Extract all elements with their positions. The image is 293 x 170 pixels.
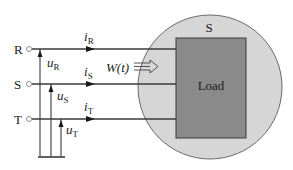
circuit-diagram: S Load R S T iR iS iT xyxy=(0,0,293,170)
system-label: S xyxy=(205,20,212,35)
terminal-r-label: R xyxy=(14,42,23,57)
terminal-r-icon xyxy=(27,47,32,52)
terminal-s-label: S xyxy=(14,77,21,92)
voltage-r-label: uR xyxy=(47,55,60,72)
current-r-label: iR xyxy=(84,29,94,46)
voltage-arrow-r-icon xyxy=(38,50,43,57)
current-arrow-r-icon xyxy=(86,46,95,52)
current-s-label: iS xyxy=(84,64,93,81)
voltage-arrow-s-icon xyxy=(49,85,54,92)
current-t-label: iT xyxy=(84,99,94,116)
voltage-arrow-t-icon xyxy=(59,120,64,127)
voltage-t-label: uT xyxy=(66,122,79,139)
terminal-s-icon xyxy=(27,82,32,87)
terminal-t-label: T xyxy=(14,112,22,127)
power-label: W(t) xyxy=(106,60,129,75)
current-arrow-s-icon xyxy=(86,81,95,87)
current-arrow-t-icon xyxy=(86,116,95,122)
terminal-t-icon xyxy=(27,117,32,122)
voltage-s-label: uS xyxy=(57,88,69,105)
load-label: Load xyxy=(198,78,225,93)
